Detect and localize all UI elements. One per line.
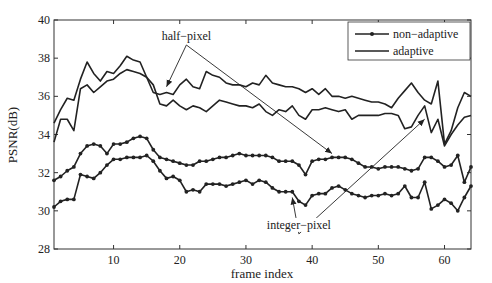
data-point [184, 190, 188, 194]
data-point [138, 156, 142, 160]
data-point [410, 169, 414, 173]
data-point [178, 178, 182, 182]
y-tick-label: 36 [38, 89, 50, 103]
data-point [224, 184, 228, 188]
data-point [165, 176, 169, 180]
data-point [218, 182, 222, 186]
data-point [237, 152, 241, 156]
data-point [376, 167, 380, 171]
data-point [297, 199, 301, 203]
x-tick-label: 50 [372, 253, 384, 267]
data-point [145, 154, 149, 158]
y-tick-label: 34 [38, 128, 50, 142]
data-point [390, 165, 394, 169]
data-point [330, 186, 334, 190]
data-point [204, 182, 208, 186]
data-point [184, 163, 188, 167]
data-point [257, 178, 261, 182]
data-point [416, 167, 420, 171]
data-point [79, 152, 83, 156]
data-point [178, 161, 182, 165]
data-point [337, 156, 341, 160]
data-point [125, 140, 129, 144]
data-point [125, 156, 129, 160]
data-point [171, 175, 175, 179]
x-tick-label: 40 [306, 253, 318, 267]
data-point [396, 192, 400, 196]
data-point [429, 207, 433, 211]
data-point [112, 157, 116, 161]
x-tick-label: 30 [240, 253, 252, 267]
data-point [158, 169, 162, 173]
data-point [132, 136, 136, 140]
data-point [350, 157, 354, 161]
data-point [423, 180, 427, 184]
data-point [191, 188, 195, 192]
data-point [118, 157, 122, 161]
data-point [52, 205, 56, 209]
data-point [264, 154, 268, 158]
data-point [376, 194, 380, 198]
data-point [429, 156, 433, 160]
data-point [271, 186, 275, 190]
data-point [251, 182, 255, 186]
data-point [370, 194, 374, 198]
data-point [390, 194, 394, 198]
data-point [469, 165, 473, 169]
data-point [436, 203, 440, 207]
data-point [403, 167, 407, 171]
annotation-label: half−pixel [162, 29, 212, 43]
data-point [284, 190, 288, 194]
data-point [290, 190, 294, 194]
y-tick-label: 38 [38, 51, 50, 65]
data-point [363, 196, 367, 200]
data-point [92, 176, 96, 180]
data-point [423, 156, 427, 160]
data-point [443, 165, 447, 169]
x-tick-label: 20 [174, 253, 186, 267]
data-point [284, 159, 288, 163]
data-point [310, 194, 314, 198]
data-point [151, 159, 155, 163]
data-point [310, 159, 314, 163]
data-point [277, 190, 281, 194]
data-point [337, 184, 341, 188]
data-point [277, 159, 281, 163]
data-point [462, 180, 466, 184]
data-point [231, 182, 235, 186]
data-point [231, 154, 235, 158]
data-point [105, 163, 109, 167]
data-point [244, 178, 248, 182]
data-point [443, 197, 447, 201]
data-point [383, 192, 387, 196]
legend-dot-icon [370, 32, 374, 36]
data-point [264, 180, 268, 184]
x-axis-label: frame index [231, 266, 294, 281]
legend-label-non-adaptive: non−adaptive [393, 27, 458, 41]
y-tick-label: 30 [38, 204, 50, 218]
y-tick-label: 40 [38, 13, 50, 27]
data-point [237, 180, 241, 184]
data-point [85, 175, 89, 179]
data-point [343, 156, 347, 160]
data-point [456, 154, 460, 158]
data-point [198, 190, 202, 194]
data-point [323, 157, 327, 161]
data-point [317, 192, 321, 196]
x-tick-label: 60 [439, 253, 451, 267]
legend-label-adaptive: adaptive [393, 44, 434, 58]
data-point [85, 144, 89, 148]
data-point [151, 148, 155, 152]
data-point [357, 194, 361, 198]
data-point [72, 165, 76, 169]
data-point [469, 184, 473, 188]
data-point [456, 209, 460, 213]
data-point [251, 154, 255, 158]
x-tick-label: 10 [108, 253, 120, 267]
data-point [72, 197, 76, 201]
data-point [112, 142, 116, 146]
y-tick-label: 32 [38, 166, 50, 180]
legend: non−adaptive adaptive [348, 22, 470, 60]
data-point [224, 156, 228, 160]
data-point [198, 159, 202, 163]
